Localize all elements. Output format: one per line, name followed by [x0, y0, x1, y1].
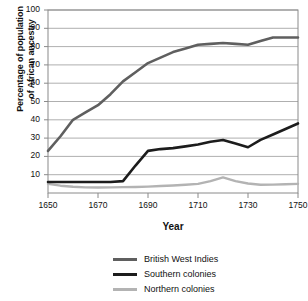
legend-swatch-british-west-indies [113, 258, 137, 261]
y-tick-label-10: 10 [14, 170, 40, 179]
legend-label-northern-colonies: Northern colonies [144, 284, 215, 294]
x-tick-label-1730: 1730 [228, 201, 268, 210]
legend-item-northern-colonies: Northern colonies [113, 282, 303, 296]
y-tick-label-60: 60 [14, 78, 40, 87]
x-tick-label-1670: 1670 [78, 201, 118, 210]
legend-label-british-west-indies: British West Indies [144, 254, 218, 264]
chart-legend: British West Indies Southern colonies No… [113, 252, 303, 297]
legend-label-southern-colonies: Southern colonies [144, 269, 216, 279]
y-tick-label-70: 70 [14, 60, 40, 69]
y-tick-label-90: 90 [14, 23, 40, 32]
y-tick-label-50: 50 [14, 97, 40, 106]
x-tick-label-1650: 1650 [28, 201, 68, 210]
legend-swatch-southern-colonies [113, 273, 137, 276]
y-tick-label-30: 30 [14, 133, 40, 142]
legend-swatch-northern-colonies [113, 288, 137, 291]
legend-item-british-west-indies: British West Indies [113, 252, 303, 266]
line-series-southern-colonies [48, 123, 298, 182]
y-tick-label-20: 20 [14, 151, 40, 160]
legend-item-southern-colonies: Southern colonies [113, 267, 303, 281]
x-tick-label-1710: 1710 [178, 201, 218, 210]
y-tick-label-80: 80 [14, 42, 40, 51]
y-tick-label-40: 40 [14, 115, 40, 124]
chart-figure: Percentage of population of African ance… [0, 0, 308, 301]
line-series-british-west-indies [48, 37, 298, 150]
y-tick-label-100: 100 [14, 5, 40, 14]
x-tick-label-1690: 1690 [128, 201, 168, 210]
plot-area: Percentage of population of African ance… [0, 0, 308, 240]
x-axis-title: Year [48, 221, 298, 232]
x-tick-label-1750: 1750 [278, 201, 308, 210]
